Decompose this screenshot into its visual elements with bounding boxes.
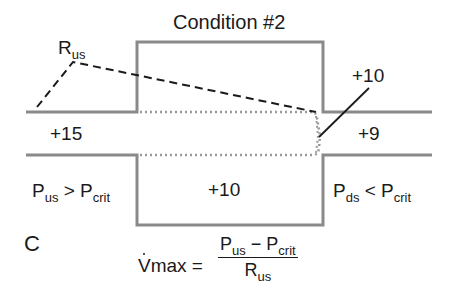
chamber-pressure-value: +10 [208,180,240,199]
resistance-label: Rus [58,38,85,57]
panel-letter: C [24,233,40,255]
equation-fraction: Pus − Pcrit Rus [218,234,298,281]
collapse-pressure-value: +10 [352,66,384,85]
equation-denominator: Rus [218,258,298,281]
pressure-gradient-line [37,62,316,112]
diagram-title: Condition #2 [173,12,285,32]
downstream-condition: Pds < Pcrit [333,181,411,200]
downstream-pressure-value: +9 [358,124,380,143]
collapsible-segment-inner [316,116,318,153]
upstream-condition: Pus > Pcrit [32,181,110,200]
upstream-pressure-value: +15 [50,124,82,143]
collapsible-segment-lower [140,136,320,155]
equation-lhs: Vmax = [138,256,203,275]
equation-numerator: Pus − Pcrit [218,234,298,258]
collapsible-segment-upper [140,112,320,136]
